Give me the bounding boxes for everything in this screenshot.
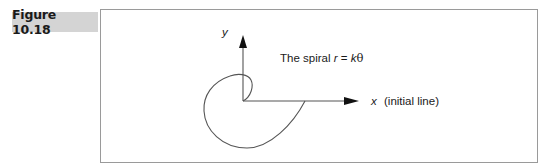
y-axis: [239, 35, 247, 101]
spiral-diagram: y The spiral r = kθ x (initial line): [0, 0, 546, 168]
x-axis-label: x: [370, 95, 378, 107]
x-axis-note: (initial line): [384, 95, 439, 107]
title-eq: =: [338, 52, 351, 64]
x-axis: [243, 97, 359, 105]
diagram-title: The spiral r = kθ: [280, 51, 363, 65]
x-axis-arrowhead-icon: [344, 97, 359, 105]
spiral-curve: [204, 74, 305, 148]
y-axis-arrowhead-icon: [239, 35, 247, 48]
title-prefix: The spiral: [280, 52, 334, 64]
title-theta: θ: [356, 51, 363, 65]
y-axis-label: y: [221, 26, 229, 38]
